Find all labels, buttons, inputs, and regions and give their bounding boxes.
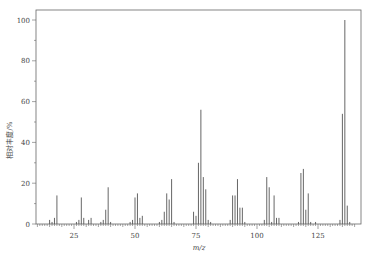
- y-tick-label: 40: [21, 139, 30, 147]
- y-axis-ticks: 020406080100: [17, 17, 36, 229]
- y-tick-label: 80: [21, 57, 30, 65]
- x-tick-label: 100: [250, 232, 263, 240]
- y-tick-label: 100: [17, 17, 30, 25]
- x-axis-ticks: 255075100125: [37, 224, 354, 240]
- y-tick-label: 60: [21, 98, 30, 106]
- x-axis-label: m/z: [193, 244, 206, 252]
- x-tick-label: 50: [131, 232, 140, 240]
- y-axis-label: 相对丰度/%: [5, 121, 14, 158]
- y-tick-label: 0: [26, 221, 30, 229]
- x-tick-label: 125: [311, 232, 324, 240]
- x-tick-label: 25: [70, 232, 79, 240]
- spectrum-peaks: [50, 20, 350, 224]
- mass-spectrum-chart: 255075100125 020406080100 m/z 相对丰度/%: [0, 0, 369, 257]
- y-tick-label: 20: [21, 180, 30, 188]
- x-tick-label: 75: [192, 232, 201, 240]
